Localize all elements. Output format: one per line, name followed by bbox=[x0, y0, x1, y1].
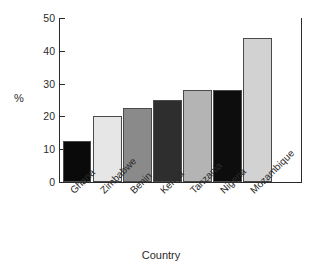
bar-chart: % 01020304050 GhanaZimbabweBeninKenyaTan… bbox=[0, 0, 322, 278]
y-axis-tick-label: 40 bbox=[31, 46, 55, 56]
y-axis-tick bbox=[60, 182, 65, 183]
y-axis-tick-label: 0 bbox=[31, 177, 55, 187]
x-axis-title: Country bbox=[0, 249, 322, 261]
y-axis-tick-label: 20 bbox=[31, 111, 55, 121]
y-axis-tick-label-text: 20 bbox=[33, 111, 55, 121]
y-axis-tick-label: 10 bbox=[31, 144, 55, 154]
y-axis-tick-label-text: 50 bbox=[33, 13, 55, 23]
y-axis-title: % bbox=[8, 92, 30, 105]
bar bbox=[243, 38, 272, 182]
y-axis-tick-label: 30 bbox=[31, 79, 55, 89]
y-axis-tick-label-text: 10 bbox=[33, 144, 55, 154]
y-axis-tick-label-text: 0 bbox=[33, 177, 55, 187]
y-axis-tick-label: 50 bbox=[31, 13, 55, 23]
bars-layer bbox=[59, 18, 302, 182]
y-axis-tick-label-text: 30 bbox=[33, 79, 55, 89]
y-axis-tick-label-text: 40 bbox=[33, 46, 55, 56]
